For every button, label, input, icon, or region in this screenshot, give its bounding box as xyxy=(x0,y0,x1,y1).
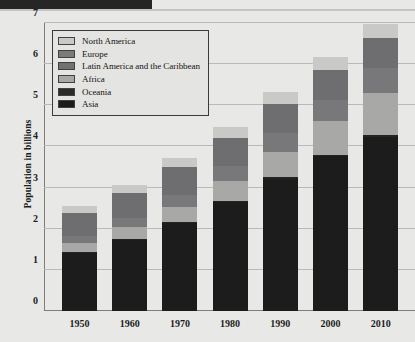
legend-item-label: Europe xyxy=(82,49,108,59)
legend-item-label: North America xyxy=(82,36,135,46)
bar-segment[interactable] xyxy=(162,222,197,223)
legend-item-label: Oceania xyxy=(82,87,111,97)
bar-segment[interactable] xyxy=(263,133,298,151)
x-axis-tick-label: 2010 xyxy=(371,318,391,329)
bar-segment[interactable] xyxy=(313,100,348,121)
bar-segment[interactable] xyxy=(363,68,398,92)
bar-group[interactable]: 1970 xyxy=(162,158,197,311)
y-axis-title: Population in billions xyxy=(23,89,33,239)
bar-segment[interactable] xyxy=(313,155,348,156)
bar-segment[interactable] xyxy=(112,239,147,240)
y-axis-tick-label: 4 xyxy=(33,130,38,141)
bar-segment[interactable] xyxy=(213,166,248,181)
bar-segment[interactable] xyxy=(162,158,197,167)
bar-segment[interactable] xyxy=(363,38,398,68)
x-axis-tick-label: 2000 xyxy=(321,318,341,329)
bar-segment[interactable] xyxy=(363,135,398,137)
bar-segment[interactable] xyxy=(363,137,398,311)
bar-segment[interactable] xyxy=(213,201,248,202)
bar-segment[interactable] xyxy=(162,223,197,311)
legend-swatch xyxy=(58,62,75,70)
legend-item[interactable]: Europe xyxy=(58,48,201,61)
y-axis-tick-label: 7 xyxy=(33,7,38,18)
legend-swatch xyxy=(58,100,75,108)
bar-segment[interactable] xyxy=(313,156,348,311)
legend-item[interactable]: Oceania xyxy=(58,85,201,98)
bar-segment[interactable] xyxy=(263,177,298,178)
bar-group[interactable]: 1960 xyxy=(112,187,147,311)
x-axis-tick-label: 1970 xyxy=(170,318,190,329)
bar-segment[interactable] xyxy=(313,70,348,100)
y-axis-tick-label: 3 xyxy=(33,171,38,182)
bar-segment[interactable] xyxy=(213,138,248,166)
bar-segment[interactable] xyxy=(162,167,197,194)
x-axis-tick-label: 1980 xyxy=(220,318,240,329)
y-axis-tick-label: 5 xyxy=(33,89,38,100)
bar-segment[interactable] xyxy=(162,195,197,207)
bar-segment[interactable] xyxy=(112,218,147,227)
bar-segment[interactable] xyxy=(62,206,97,213)
legend-item[interactable]: Latin America and the Caribbean xyxy=(58,60,201,73)
chart-figure: Population in billions 01234567 19501960… xyxy=(0,11,415,342)
bar-segment[interactable] xyxy=(62,243,97,252)
legend-item[interactable]: Africa xyxy=(58,73,201,86)
bar-segment[interactable] xyxy=(263,92,298,104)
bar-segment[interactable] xyxy=(62,253,97,311)
y-axis-tick-label: 1 xyxy=(33,253,38,264)
bar-group[interactable]: 2010 xyxy=(363,25,398,311)
y-axis-tick-label: 0 xyxy=(33,295,38,306)
bar-segment[interactable] xyxy=(263,152,298,178)
legend-item-label: Asia xyxy=(82,99,98,109)
legend-item-label: Latin America and the Caribbean xyxy=(82,61,200,71)
legend-item-label: Africa xyxy=(82,74,105,84)
bar-segment[interactable] xyxy=(313,121,348,155)
legend-swatch xyxy=(58,37,75,45)
x-axis-tick-label: 1990 xyxy=(270,318,290,329)
bar-group[interactable]: 1990 xyxy=(263,92,298,311)
header-band xyxy=(0,0,152,9)
bar-segment[interactable] xyxy=(363,24,398,38)
legend-item[interactable]: North America xyxy=(58,35,201,48)
bar-segment[interactable] xyxy=(112,185,147,193)
bar-group[interactable]: 1980 xyxy=(213,127,248,311)
bar-segment[interactable] xyxy=(213,202,248,311)
legend-swatch xyxy=(58,75,75,83)
bar-segment[interactable] xyxy=(112,227,147,239)
legend-swatch xyxy=(58,50,75,58)
bar-segment[interactable] xyxy=(213,181,248,201)
bar-segment[interactable] xyxy=(62,236,97,243)
x-axis-tick-label: 1950 xyxy=(70,318,90,329)
bar-segment[interactable] xyxy=(363,93,398,135)
y-axis-tick-label: 2 xyxy=(33,212,38,223)
bar-group[interactable]: 1950 xyxy=(62,210,97,311)
legend-item[interactable]: Asia xyxy=(58,98,201,111)
bar-segment[interactable] xyxy=(62,252,97,253)
bar-segment[interactable] xyxy=(62,213,97,236)
bar-segment[interactable] xyxy=(313,57,348,70)
y-axis-tick-label: 6 xyxy=(33,48,38,59)
bar-segment[interactable] xyxy=(213,127,248,137)
bar-segment[interactable] xyxy=(162,207,197,222)
bar-segment[interactable] xyxy=(112,239,147,311)
bar-segment[interactable] xyxy=(112,193,147,218)
bar-group[interactable]: 2000 xyxy=(313,58,348,311)
chart-legend: North AmericaEuropeLatin America and the… xyxy=(52,30,209,116)
x-axis-tick-label: 1960 xyxy=(120,318,140,329)
legend-swatch xyxy=(58,88,75,96)
bar-segment[interactable] xyxy=(263,179,298,311)
bar-segment[interactable] xyxy=(263,104,298,134)
